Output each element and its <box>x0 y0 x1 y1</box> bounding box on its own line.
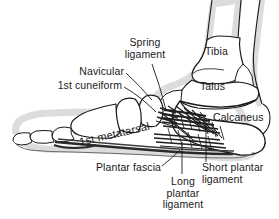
proximal-phalanx-bone <box>30 131 54 144</box>
label-short-plantar-line1: Short plantar <box>202 162 263 174</box>
foot-anatomy-figure: Spring ligament Navicular 1st cuneiform … <box>0 0 279 219</box>
label-spring-ligament: Spring ligament <box>118 37 172 60</box>
label-tibia: Tibia <box>205 46 228 58</box>
label-short-plantar-line2: ligament <box>202 174 263 186</box>
label-talus: Talus <box>200 81 225 93</box>
label-spring-ligament-line2: ligament <box>118 49 172 61</box>
anatomy-drawing <box>0 0 279 219</box>
label-navicular: Navicular <box>60 66 124 78</box>
label-calcaneus: Calcaneus <box>213 112 264 124</box>
leader-navicular <box>126 73 152 100</box>
label-long-plantar-ligament: Long plantar ligament <box>155 176 211 211</box>
label-long-plantar-line3: ligament <box>155 199 211 211</box>
label-plantar-fascia: Plantar fascia <box>96 162 161 174</box>
label-long-plantar-line1: Long <box>155 176 211 188</box>
label-first-cuneiform: 1st cuneiform <box>28 80 122 92</box>
distal-phalanx-bone <box>13 133 32 145</box>
label-spring-ligament-line1: Spring <box>118 37 172 49</box>
label-short-plantar-ligament: Short plantar ligament <box>202 162 263 185</box>
